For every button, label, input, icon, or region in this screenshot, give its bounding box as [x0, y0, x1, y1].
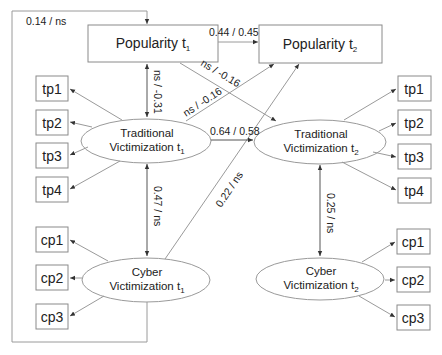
- indicator-right-tp2: tp2: [398, 110, 431, 135]
- svg-text:tp2: tp2: [42, 115, 62, 131]
- indicator-right-tp4: tp4: [398, 178, 431, 203]
- indicator-right-cp3: cp3: [397, 305, 430, 330]
- svg-text:cp2: cp2: [402, 272, 425, 288]
- path-model-diagram: 0.14 / ns Popularity t1 Popularity t2 0.…: [0, 0, 442, 355]
- popularity-t1-box: Popularity t1: [88, 25, 218, 62]
- indicator-left-cp3: cp3: [36, 304, 68, 329]
- indicator-right-cp2: cp2: [397, 267, 430, 292]
- svg-text:tp2: tp2: [404, 115, 424, 131]
- svg-text:tp3: tp3: [42, 148, 62, 164]
- indicator-left-tp4: tp4: [36, 177, 68, 202]
- svg-text:Traditional: Traditional: [294, 128, 347, 140]
- coef-trad1-trad2: 0.64 / 0.58: [210, 125, 260, 137]
- indicator-left-cp1: cp1: [36, 227, 68, 252]
- coef-trad1-pop2: ns / -0.16: [181, 85, 224, 119]
- popularity-t2-box: Popularity t2: [259, 25, 382, 63]
- coef-trad1-cyber1: 0.47 / ns: [152, 186, 164, 226]
- svg-text:tp1: tp1: [42, 81, 62, 97]
- svg-text:cp3: cp3: [402, 310, 425, 326]
- popularity-t1-label: Popularity t: [116, 35, 186, 51]
- coef-cyber1-pop2: 0.22 / ns: [213, 169, 245, 209]
- traditional-victimization-t2: Traditional Victimization t2: [254, 120, 386, 164]
- indicator-right-tp3: tp3: [398, 144, 431, 169]
- indicator-left-tp3: tp3: [36, 143, 68, 168]
- indicator-right-cp1: cp1: [397, 229, 430, 254]
- popularity-t2-label: Popularity t: [283, 36, 353, 52]
- svg-text:cp3: cp3: [41, 309, 64, 325]
- svg-text:cp1: cp1: [41, 232, 64, 248]
- svg-text:cp1: cp1: [402, 234, 425, 250]
- svg-text:tp3: tp3: [404, 149, 424, 165]
- coef-pop1-trad1: ns / -0.31: [152, 70, 164, 114]
- cyber-victimization-t2: Cyber Victimization t2: [256, 258, 384, 300]
- edge-cyber1-pop2: [165, 64, 299, 259]
- coef-pop1-pop2: 0.44 / 0.45: [209, 26, 259, 38]
- coef-trad2-cyber2: 0.25 / ns: [325, 193, 337, 233]
- svg-text:tp4: tp4: [404, 183, 424, 199]
- svg-text:Cyber: Cyber: [132, 266, 163, 278]
- indicator-left-cp2: cp2: [36, 265, 68, 290]
- indicator-left-tp2: tp2: [36, 110, 68, 135]
- coef-loop: 0.14 / ns: [26, 15, 66, 27]
- svg-text:Traditional: Traditional: [120, 127, 173, 139]
- indicator-left-tp1: tp1: [36, 76, 68, 101]
- svg-text:tp1: tp1: [404, 81, 424, 97]
- traditional-victimization-t1: Traditional Victimization t1: [81, 119, 211, 163]
- svg-text:tp4: tp4: [42, 182, 62, 198]
- cyber-victimization-t1: Cyber Victimization t1: [82, 258, 210, 302]
- svg-text:Popularity t2: Popularity t2: [283, 36, 358, 54]
- indicator-right-tp1: tp1: [398, 76, 431, 101]
- svg-text:cp2: cp2: [41, 270, 64, 286]
- svg-text:Popularity t1: Popularity t1: [116, 35, 191, 53]
- coef-pop1-trad2: ns / -0.16: [199, 56, 243, 89]
- svg-text:Cyber: Cyber: [306, 265, 337, 277]
